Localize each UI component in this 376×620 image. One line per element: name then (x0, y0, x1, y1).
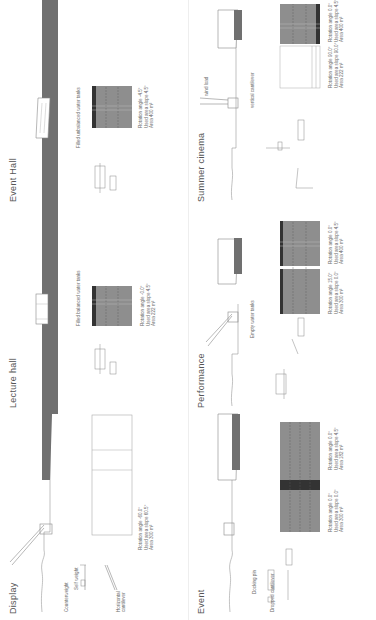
label-filled-balanced-water-tanks: Filled balanced water tanks (76, 270, 81, 326)
lecture-hall-drawing (0, 208, 188, 414)
label-horizontal-cantilever: Horizontal cantilever (116, 572, 126, 612)
panel-summer-cinema: Summer cinema wind load vertical cantile… (188, 2, 376, 208)
spec-block: Rotation angle -60.0° Used area slope 60… (138, 504, 155, 550)
label-docking-pin: Docking pin (252, 570, 257, 594)
panel-performance: Performance Empty water tanks Rotation a… (188, 208, 376, 414)
spec-block-1: Rotation angle 90.0° Used area slope 90.… (328, 42, 345, 88)
spec-block-2: Rotation angle 0.0° Used area slope 4.5°… (328, 0, 345, 42)
performance-drawing (188, 208, 376, 414)
panel-event: Event Docking pin Dropped cantilever Rot… (188, 414, 376, 620)
event-drawing (188, 414, 376, 620)
label-empty-water-tanks: Empty water tanks (250, 300, 255, 338)
panel-event-hall: Event Hall Filled unbalanced water tanks… (0, 2, 188, 208)
label-filled-unbalanced-water-tanks: Filled unbalanced water tanks (76, 87, 81, 148)
display-drawing (0, 414, 188, 620)
diagram-canvas: Display Counterweight Self weight Horizo… (0, 0, 376, 620)
spec-block-2: Rotation angle 0.0° Used area slope 4.5°… (328, 221, 345, 264)
summer-cinema-drawing (188, 0, 376, 208)
panel-display: Display Counterweight Self weight Horizo… (0, 414, 188, 620)
panel-lecture-hall: Lecture hall Filled balanced water tanks… (0, 208, 188, 414)
label-self-weight: Self weight (74, 568, 79, 590)
spec-block-2: Rotation angle 0.0° Used area slope 4.5°… (328, 427, 345, 470)
label-counterweight: Counterweight (64, 582, 69, 612)
label-wind-load: wind load (204, 77, 209, 96)
spec-block-1: Rotation angle 15.0° Used area slope 0.0… (328, 271, 345, 314)
event-hall-drawing (0, 0, 188, 208)
label-vertical-cantilever: vertical cantilever (250, 73, 255, 109)
spec-block: Rotation angle -4.5° Used area slope 4.5… (138, 85, 155, 128)
spec-block: Rotation angle -0.0° Used area slope 4.5… (140, 283, 157, 326)
label-dropped-cantilever: Dropped cantilever (270, 573, 275, 612)
spec-block-1: Rotation angle 0.0° Used area slope 0.0°… (328, 489, 345, 532)
